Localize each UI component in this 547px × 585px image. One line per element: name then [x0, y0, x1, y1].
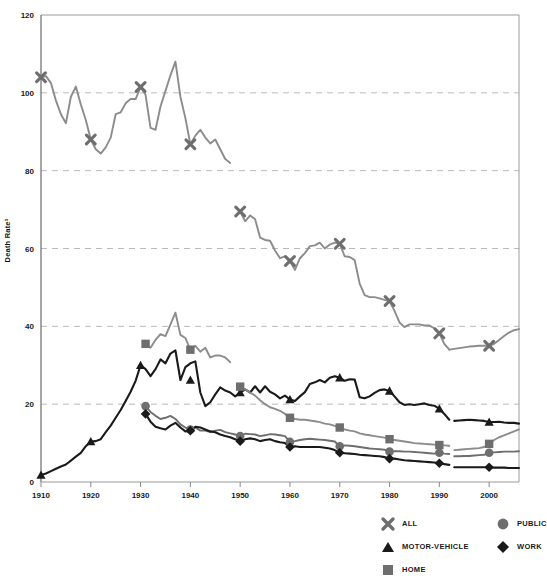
- marker-home-1960: [286, 414, 294, 422]
- marker-all-1950: [236, 207, 245, 216]
- x-tick-label-1970: 1970: [331, 491, 349, 500]
- x-tick-label-1990: 1990: [430, 491, 448, 500]
- x-tick-label-1960: 1960: [281, 491, 299, 500]
- x-tick-label-1950: 1950: [231, 491, 249, 500]
- legend-column-2: PUBLICWORK: [495, 512, 547, 558]
- series-segment-all-2: [449, 329, 519, 350]
- x-tick-label-1980: 1980: [381, 491, 399, 500]
- y-tick-label-20: 20: [25, 400, 34, 409]
- marker-home-1980: [385, 435, 393, 443]
- series-segment-work-0: [146, 414, 450, 465]
- x-tick-label-1910: 1910: [32, 491, 50, 500]
- marker-all-1990: [435, 329, 444, 338]
- y-tick-label-100: 100: [21, 89, 35, 98]
- series-line-motor-vehicle: [41, 350, 519, 475]
- legend-item-home[interactable]: HOME: [380, 558, 469, 581]
- marker-motor-vehicle-1990: [435, 404, 444, 412]
- x-tick-label-1940: 1940: [181, 491, 199, 500]
- marker-home-1950: [236, 382, 244, 390]
- legend-item-work[interactable]: WORK: [495, 535, 547, 558]
- series-segment-home-0: [146, 313, 231, 362]
- legend-item-all[interactable]: ALL: [380, 512, 469, 535]
- marker-motor-vehicle-1940: [186, 375, 195, 383]
- y-tick-label-60: 60: [25, 245, 34, 254]
- series-line-all: [41, 62, 519, 350]
- circle-icon: [495, 516, 511, 532]
- marker-work-1970: [335, 448, 345, 458]
- series-markers-home: [141, 340, 493, 450]
- marker-public-2000: [485, 449, 494, 458]
- legend-item-label: PUBLIC: [517, 519, 547, 528]
- y-tick-label-120: 120: [21, 11, 35, 20]
- series-segment-all-0: [41, 62, 230, 163]
- series-markers-work: [141, 409, 494, 472]
- legend-item-label: HOME: [402, 565, 426, 574]
- marker-public-1990: [435, 449, 444, 458]
- marker-work-2000: [484, 462, 494, 472]
- y-tick-label-40: 40: [25, 322, 34, 331]
- series-line-home: [146, 313, 519, 450]
- x-tick-label-1930: 1930: [132, 491, 150, 500]
- series-markers-all: [37, 73, 494, 350]
- marker-home-1970: [336, 423, 344, 431]
- legend-item-public[interactable]: PUBLIC: [495, 512, 547, 535]
- legend-item-label: MOTOR-VEHICLE: [402, 542, 469, 551]
- x-tick-label-2000: 2000: [480, 491, 498, 500]
- marker-home-1990: [435, 441, 443, 449]
- x-tick-label-1920: 1920: [82, 491, 100, 500]
- marker-home-2000: [485, 440, 493, 448]
- x-icon: [380, 516, 396, 532]
- legend-item-label: WORK: [517, 542, 542, 551]
- square-icon: [380, 562, 396, 578]
- legend-column-1: ALLMOTOR-VEHICLEHOME: [380, 512, 469, 581]
- marker-home-1940: [186, 345, 194, 353]
- legend-item-motor-vehicle[interactable]: MOTOR-VEHICLE: [380, 535, 469, 558]
- legend-item-label: ALL: [402, 519, 417, 528]
- diamond-icon: [495, 539, 511, 555]
- marker-home-1931: [141, 340, 149, 348]
- chart-legend: ALLMOTOR-VEHICLEHOME PUBLICWORK: [380, 512, 543, 580]
- marker-work-1990: [435, 459, 445, 469]
- marker-all-1930: [136, 83, 145, 92]
- marker-motor-vehicle-1930: [136, 361, 145, 369]
- y-axis-title-text: Death Rate¹: [4, 218, 13, 262]
- y-tick-label-80: 80: [25, 167, 34, 176]
- triangle-icon: [380, 539, 396, 555]
- series-segment-home-1: [240, 387, 449, 446]
- plot-area: 0204060801001201910192019301940195019601…: [0, 0, 543, 512]
- marker-all-1960: [286, 257, 295, 266]
- y-tick-label-0: 0: [30, 478, 35, 487]
- marker-work-1980: [385, 454, 395, 464]
- series-segment-all-1: [240, 212, 449, 350]
- y-axis-title: Death Rate¹: [1, 180, 15, 300]
